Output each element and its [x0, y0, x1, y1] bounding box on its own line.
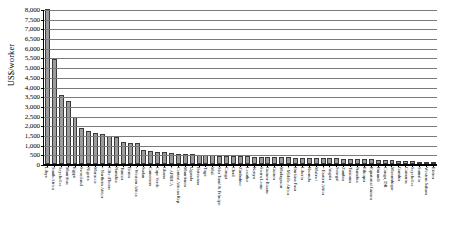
axis-baseline — [44, 165, 437, 166]
x-tick-label: • Northern Africa — [99, 167, 104, 198]
x-tick-label: Madagascar — [279, 167, 284, 189]
y-tick-mark — [41, 68, 44, 69]
x-label-slot: • Northern Africa — [98, 167, 105, 239]
y-tick-label: 3,500 — [25, 94, 40, 101]
y-tick-label: 6,500 — [25, 36, 40, 43]
x-label-slot: Namibia — [354, 167, 361, 239]
x-label-slot: • AFRICA — [167, 167, 174, 239]
x-tick-label: • Western Africa — [134, 167, 139, 196]
gridline — [44, 20, 437, 21]
plot-area — [43, 10, 437, 165]
x-tick-label: Ghana — [162, 167, 167, 179]
x-tick-label: Burundi — [376, 167, 381, 182]
bar — [107, 136, 112, 164]
x-label-slot: Guinea — [271, 167, 278, 239]
gridline — [44, 58, 437, 59]
bar — [45, 9, 50, 164]
gridline — [44, 146, 437, 147]
x-tick-label: • Middle Africa — [286, 167, 291, 195]
gridline — [44, 78, 437, 79]
x-label-slot: Congo — [223, 167, 230, 239]
x-tick-label: Mali — [210, 167, 215, 175]
x-tick-label: Congo — [224, 167, 229, 179]
x-label-slot: Swaziland — [78, 167, 85, 239]
bar — [141, 150, 146, 164]
gridline — [44, 136, 437, 137]
x-label-slot: Guinea-Bissau — [264, 167, 271, 239]
x-tick-label: Congo, DR — [383, 167, 388, 187]
bar — [279, 157, 284, 164]
x-tick-label: Seychelles — [410, 167, 415, 186]
x-label-slot: Mozambique — [388, 167, 395, 239]
y-tick-label: 7,000 — [25, 26, 40, 33]
bar — [114, 137, 119, 165]
bar — [245, 156, 250, 164]
x-label-slot: Cape Verde — [154, 167, 161, 239]
x-label-slot: Zambia — [340, 167, 347, 239]
x-label-slot: Lesotho — [243, 167, 250, 239]
x-tick-label: Chad — [231, 167, 236, 177]
y-tick-label: 1,500 — [25, 132, 40, 139]
bar — [203, 155, 208, 164]
x-label-slot: Rwanda — [305, 167, 312, 239]
x-label-slot: Nigeria — [84, 167, 91, 239]
bar — [52, 59, 57, 164]
x-label-slot: South Africa — [50, 167, 57, 239]
bar — [265, 157, 270, 164]
y-tick-mark — [41, 88, 44, 89]
x-label-slot: Kenya — [250, 167, 257, 239]
y-tick-label: 0 — [37, 162, 40, 169]
x-tick-label: Namibia — [113, 167, 118, 182]
gridline — [44, 29, 437, 30]
y-tick-label: 1,000 — [25, 142, 40, 149]
x-label-slot: Liberia — [299, 167, 306, 239]
x-tick-label: Zimbabwe — [238, 167, 243, 186]
x-tick-label: Comoros — [403, 167, 408, 184]
x-label-slot: Libya — [43, 167, 50, 239]
x-label-slot: Benin — [126, 167, 133, 239]
y-tick-mark — [41, 58, 44, 59]
x-tick-label: Seychelles — [58, 167, 63, 186]
gridline — [44, 68, 437, 69]
x-label-slot: Ghana — [160, 167, 167, 239]
y-tick-mark — [41, 39, 44, 40]
gridline — [44, 117, 437, 118]
bar — [224, 156, 229, 164]
x-tick-label: Nigeria — [86, 167, 91, 180]
x-tick-label: Burkina Faso — [293, 167, 298, 191]
x-label-slot: Congo, DR — [381, 167, 388, 239]
bar — [286, 157, 291, 164]
x-tick-label: Egypt — [72, 167, 77, 178]
y-tick-label: 4,500 — [25, 74, 40, 81]
gridline — [44, 10, 437, 11]
x-tick-label: Eritrea — [431, 167, 436, 179]
x-tick-label: Côte d'Ivoire — [106, 167, 111, 190]
y-tick-mark — [41, 10, 44, 11]
y-tick-mark — [41, 126, 44, 127]
x-label-slot: Togo — [202, 167, 209, 239]
gridline — [44, 39, 437, 40]
x-tick-label: Somalia — [417, 167, 422, 182]
x-tick-label: Western Sahara — [424, 167, 429, 195]
bar — [162, 152, 167, 164]
x-label-slot: Tanzania — [347, 167, 354, 239]
bar-chart: US$/worker 05001,0001,5002,0002,5003,000… — [0, 0, 458, 239]
bar — [231, 156, 236, 164]
x-label-slot: Western Sahara — [423, 167, 430, 239]
x-tick-label: South Africa — [51, 167, 56, 190]
x-label-slot: Ethiopia — [361, 167, 368, 239]
x-tick-label: Mauritius — [65, 167, 70, 184]
bar — [73, 117, 78, 164]
x-label-slot: • Middle Africa — [285, 167, 292, 239]
gridline — [44, 49, 437, 50]
bar — [259, 157, 264, 164]
gridline — [44, 97, 437, 98]
x-label-slot: Angola — [326, 167, 333, 239]
x-tick-label: Morocco — [93, 167, 98, 183]
y-tick-mark — [41, 20, 44, 21]
x-tick-label: • Eastern Africa — [320, 167, 325, 195]
bar — [155, 152, 160, 164]
y-tick-mark — [41, 146, 44, 147]
x-tick-label: • AFRICA — [168, 167, 173, 186]
bar — [148, 151, 153, 164]
